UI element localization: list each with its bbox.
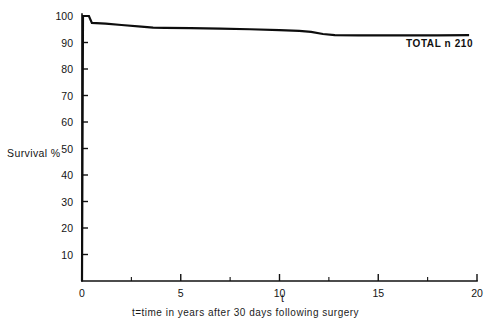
y-tick-label-60: 60 — [61, 116, 73, 128]
survival-curve-total — [82, 16, 469, 281]
series-annotation-total: TOTAL n 210 — [406, 38, 473, 49]
y-tick-label-90: 90 — [61, 37, 73, 49]
y-tick-label-70: 70 — [61, 90, 73, 102]
y-tick-label-80: 80 — [61, 63, 73, 75]
y-tick-label-50: 50 — [61, 143, 73, 155]
x-tick-label-0: 0 — [79, 287, 85, 299]
survival-plot-canvas: 102030405060708090100 05101520 — [0, 0, 491, 331]
axes-group — [82, 14, 477, 281]
x-axis-variable-label: t — [281, 292, 284, 304]
y-tick-label-10: 10 — [61, 249, 73, 261]
y-tick-label-20: 20 — [61, 222, 73, 234]
survival-curve-group — [82, 16, 469, 281]
y-axis-tick-labels: 102030405060708090100 — [55, 10, 73, 261]
y-tick-label-40: 40 — [61, 169, 73, 181]
x-tick-label-5: 5 — [178, 287, 184, 299]
y-tick-label-100: 100 — [55, 10, 73, 22]
y-axis-title: Survival % — [7, 147, 61, 159]
y-tick-label-30: 30 — [61, 196, 73, 208]
x-tick-label-15: 15 — [372, 287, 384, 299]
x-axis-ticks — [131, 274, 477, 281]
x-tick-label-20: 20 — [471, 287, 483, 299]
survival-chart-figure: 102030405060708090100 05101520 Survival … — [0, 0, 491, 331]
figure-caption: t=time in years after 30 days following … — [0, 307, 491, 318]
